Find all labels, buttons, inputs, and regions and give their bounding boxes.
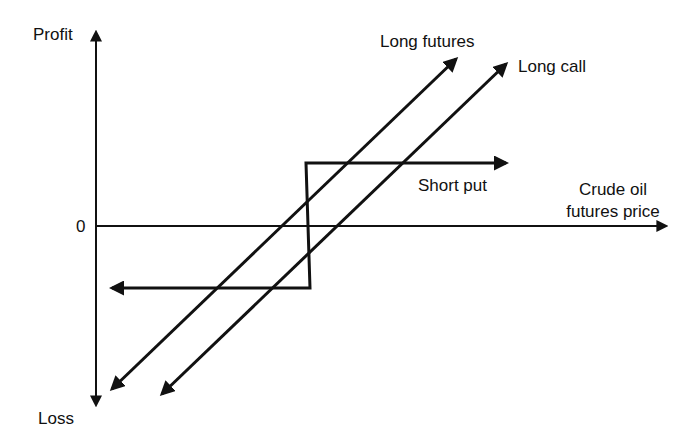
y-axis-bottom-label: Loss [38,410,74,427]
x-axis-label-line1: Crude oil [553,181,673,198]
long-futures-line [112,59,456,389]
short-put-label: Short put [418,177,487,194]
y-axis-top-label: Profit [33,26,73,43]
zero-label: 0 [76,218,85,235]
long-call-label: Long call [518,58,586,75]
long-call-line [162,64,506,394]
payoff-diagram: Profit Loss 0 Crude oil futures price Lo… [0,0,693,446]
diagram-svg [0,0,693,446]
x-axis-label-line2: futures price [553,203,673,220]
long-futures-label: Long futures [380,33,475,50]
